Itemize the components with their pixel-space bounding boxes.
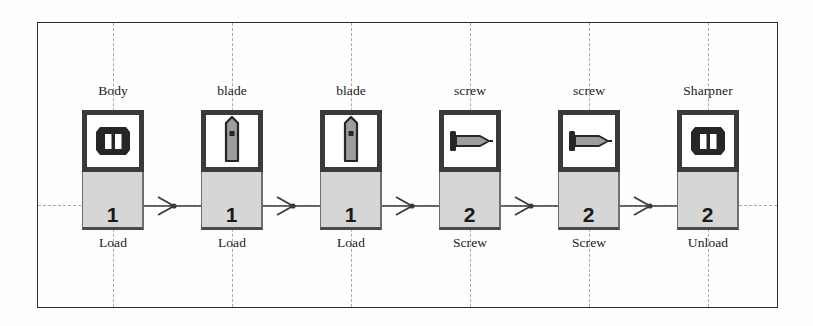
station-count: 1 [202,204,261,225]
flow-arrow-3 [382,196,440,216]
station-operation-label: Load [56,236,170,250]
station-operation-label: Load [294,236,408,250]
station-flow: Body 1 Load blade [0,0,813,326]
station-count: 2 [678,204,737,225]
screw-icon [439,110,501,172]
flow-arrow-5 [620,196,678,216]
station-count-cell: 1 [82,172,144,230]
diagram-canvas: Body 1 Load blade [0,0,813,326]
station-part-label: blade [294,84,408,98]
station-operation-label: Screw [532,236,646,250]
station-operation-label: Load [175,236,289,250]
station-count: 1 [83,204,142,225]
station-count-cell: 1 [320,172,382,230]
station-count: 2 [559,204,618,225]
station-count-cell: 2 [677,172,739,230]
spool-body-icon [677,110,739,172]
station-part-label: Body [56,84,170,98]
station-count-cell: 2 [439,172,501,230]
station-count-cell: 1 [201,172,263,230]
station-part-label: Sharpner [651,84,765,98]
station-part-label: blade [175,84,289,98]
flow-arrow-4 [501,196,559,216]
station-count: 2 [440,204,499,225]
blade-icon [201,110,263,172]
screw-icon [558,110,620,172]
station-part-label: screw [532,84,646,98]
flow-arrow-1 [144,196,202,216]
station-count-cell: 2 [558,172,620,230]
station-part-label: screw [413,84,527,98]
station-operation-label: Unload [651,236,765,250]
flow-arrow-2 [263,196,321,216]
station-operation-label: Screw [413,236,527,250]
spool-body-icon [82,110,144,172]
station-count: 1 [321,204,380,225]
blade-icon [320,110,382,172]
